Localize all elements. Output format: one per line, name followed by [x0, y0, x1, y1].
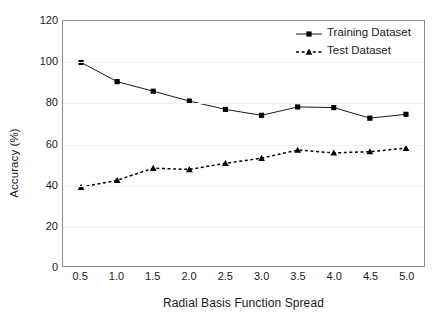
data-point-marker	[223, 107, 228, 112]
legend-swatch-triangle-icon	[296, 44, 322, 56]
y-tick-label: 100	[24, 55, 58, 67]
y-tick-label: 0	[24, 261, 58, 273]
data-point-marker	[259, 113, 264, 118]
gridline	[63, 227, 424, 228]
x-tick-label: 0.5	[72, 270, 87, 282]
legend-label: Test Dataset	[327, 44, 391, 56]
data-point-marker	[151, 89, 156, 94]
y-axis-tick-labels: 020406080100120	[22, 0, 58, 326]
y-tick-label: 40	[24, 179, 58, 191]
data-point-marker	[115, 79, 120, 84]
x-tick-label: 1.0	[109, 270, 124, 282]
x-tick-label: 3.0	[254, 270, 269, 282]
x-tick-label: 5.0	[399, 270, 414, 282]
gridline	[63, 62, 424, 63]
x-axis-tick-labels: 0.51.01.52.02.53.03.54.04.55.0	[62, 270, 425, 290]
data-point-marker	[331, 105, 336, 110]
legend-swatch-square-icon	[296, 26, 322, 38]
y-tick-label: 120	[24, 14, 58, 26]
chart-legend: Training DatasetTest Dataset	[296, 24, 420, 60]
chart-figure: Accuracy (%) 020406080100120 0.51.01.52.…	[0, 0, 441, 326]
data-point-marker	[367, 116, 372, 121]
x-axis-title: Radial Basis Function Spread	[62, 296, 425, 310]
y-tick-label: 80	[24, 96, 58, 108]
data-point-marker	[150, 165, 157, 171]
x-tick-label: 2.0	[181, 270, 196, 282]
series-1	[78, 60, 408, 121]
series-line	[81, 148, 406, 187]
data-point-marker	[295, 104, 300, 109]
legend-entry: Training Dataset	[296, 24, 420, 40]
gridline	[63, 103, 424, 104]
data-point-marker	[403, 145, 410, 151]
x-tick-label: 4.0	[327, 270, 342, 282]
legend-label: Training Dataset	[327, 26, 411, 38]
gridline	[63, 145, 424, 146]
y-tick-label: 20	[24, 220, 58, 232]
x-tick-label: 2.5	[218, 270, 233, 282]
legend-entry: Test Dataset	[296, 42, 420, 58]
x-tick-label: 1.5	[145, 270, 160, 282]
data-point-marker	[403, 112, 408, 117]
x-tick-label: 4.5	[363, 270, 378, 282]
data-point-marker	[330, 150, 337, 156]
x-tick-label: 3.5	[290, 270, 305, 282]
gridline	[63, 186, 424, 187]
series-line	[81, 62, 406, 118]
y-tick-label: 60	[24, 138, 58, 150]
series-2	[78, 145, 410, 190]
